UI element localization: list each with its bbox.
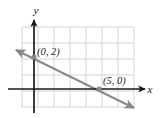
y-axis-label: y xyxy=(33,4,39,16)
point-label-0-2: (0, 2) xyxy=(37,46,60,58)
coordinate-plane-svg: y x (0, 2) (5, 0) xyxy=(0,0,160,118)
point-label-5-0: (5, 0) xyxy=(103,75,126,87)
graph-figure: y x (0, 2) (5, 0) xyxy=(0,0,160,118)
x-axis-label: x xyxy=(147,83,153,95)
grid-lines xyxy=(22,27,134,107)
point-marker-5-0 xyxy=(96,86,101,91)
point-marker-0-2 xyxy=(31,54,36,59)
